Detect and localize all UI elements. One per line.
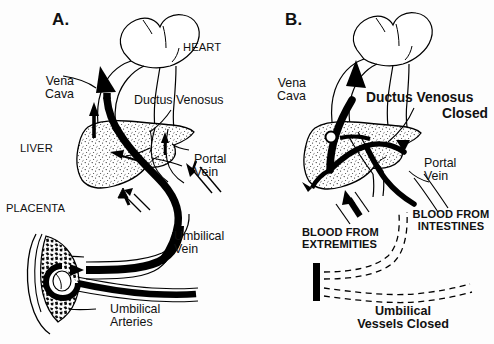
- blood-from-extremities-arrow-b: [336, 190, 369, 224]
- label-vena-cava-a: Vena Cava: [14, 75, 74, 101]
- label-ductus-venosus-closed-b: Ductus Venosus: [366, 91, 473, 106]
- label-liver-a: LIVER: [20, 143, 53, 155]
- label-placenta-a: PLACENTA: [6, 203, 65, 215]
- label-blood-from-extremities-b: BLOOD FROM EXTREMITIES: [302, 227, 379, 251]
- label-vena-cava-b: Vena Cava: [246, 77, 306, 103]
- panel-a-letter: A.: [52, 11, 69, 29]
- figure-canvas: A. HEART Vena Cava Ductus Venosus LIVER …: [0, 0, 494, 344]
- label-ductus-venosus-a: Ductus Venosus: [134, 94, 224, 107]
- panel-b-letter: B.: [285, 11, 302, 29]
- sub-liver-arrows-a: [118, 188, 150, 212]
- placenta-a: [27, 234, 84, 334]
- diagram-artwork: [0, 0, 494, 344]
- label-umbilical-vein-a: Umbilical Vein: [174, 230, 224, 256]
- umbilical-arteries-a: [72, 276, 198, 302]
- umbilical-ligature-block-b: [313, 263, 320, 301]
- label-umbilical-arteries-a: Umbilical Arteries: [110, 303, 160, 329]
- label-blood-from-intestines-b: BLOOD FROM INTESTINES: [408, 209, 494, 233]
- label-ductus-closed-line2-b: Closed: [366, 107, 488, 122]
- heart-outline-b: [353, 13, 432, 66]
- label-umbilical-vessels-closed-b: Umbilical Vessels Closed: [318, 305, 488, 332]
- panel-a-artwork: [27, 15, 221, 334]
- label-portal-vein-a: Portal Vein: [194, 153, 226, 179]
- liver-b: [304, 122, 421, 189]
- label-portal-vein-b: Portal Vein: [424, 157, 456, 183]
- label-heart-a: HEART: [183, 42, 221, 54]
